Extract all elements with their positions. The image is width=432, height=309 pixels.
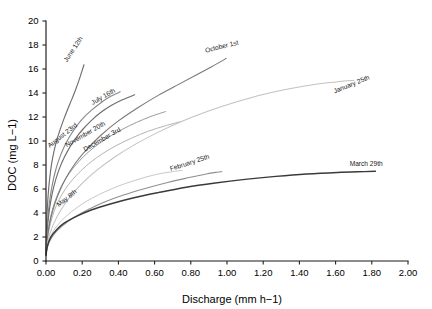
chart-figure: 02468101214161820 0.000.200.400.600.801.… — [0, 0, 432, 309]
series-label: February 25th — [169, 153, 211, 173]
series-curve — [46, 170, 182, 255]
x-tick-label: 0.60 — [145, 267, 164, 278]
series-label: May 8th — [55, 188, 79, 209]
y-tick-label: 0 — [33, 255, 38, 266]
y-tick-label: 6 — [33, 183, 38, 194]
y-tick-label: 12 — [28, 111, 39, 122]
y-axis-title: DOC (mg L−1) — [6, 119, 18, 191]
x-tick-label: 1.60 — [326, 267, 345, 278]
x-tick-label: 0.20 — [73, 267, 92, 278]
series-label: October 1st — [204, 39, 239, 54]
series-label: June 12th — [62, 35, 84, 63]
x-tick-label: 0.00 — [37, 267, 56, 278]
x-tick-label: 0.80 — [182, 267, 201, 278]
y-tick-label: 20 — [28, 15, 39, 26]
x-tick-label: 2.00 — [399, 267, 418, 278]
y-tick-label: 4 — [33, 207, 38, 218]
x-tick-label: 1.40 — [290, 267, 309, 278]
series-curve — [46, 80, 354, 255]
x-axis-title: Discharge (mm h−1) — [182, 293, 282, 305]
series-label: July 16th — [90, 86, 117, 106]
series-label: January 25th — [332, 74, 371, 96]
y-axis-tick-labels: 02468101214161820 — [28, 15, 39, 266]
y-tick-label: 18 — [28, 39, 39, 50]
y-tick-label: 14 — [28, 87, 39, 98]
series-label: March 29th — [350, 160, 383, 167]
doc-discharge-line-chart: 02468101214161820 0.000.200.400.600.801.… — [0, 0, 432, 309]
curves-layer — [46, 58, 375, 255]
y-tick-label: 8 — [33, 159, 38, 170]
y-tick-label: 16 — [28, 63, 39, 74]
y-tick-label: 2 — [33, 231, 38, 242]
series-curve — [46, 171, 375, 255]
x-tick-label: 0.40 — [109, 267, 128, 278]
x-tick-label: 1.00 — [218, 267, 237, 278]
x-axis-tick-labels: 0.000.200.400.600.801.001.201.401.601.80… — [37, 267, 418, 278]
series-curve — [46, 172, 222, 255]
y-tick-label: 10 — [28, 135, 39, 146]
x-tick-label: 1.20 — [254, 267, 273, 278]
x-tick-label: 1.80 — [363, 267, 382, 278]
